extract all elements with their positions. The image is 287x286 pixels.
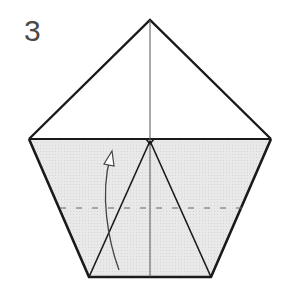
origami-diagram: [0, 0, 287, 286]
